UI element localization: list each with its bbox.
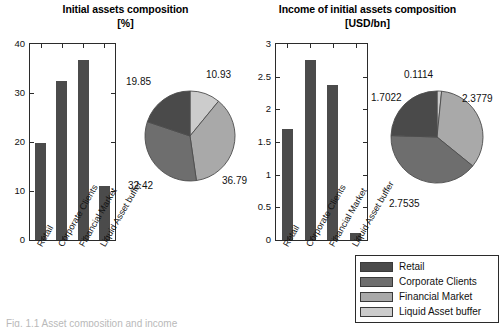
y-tick-mark xyxy=(276,207,280,208)
pie-value-label: 32.42 xyxy=(128,181,153,191)
y-tick-mark xyxy=(363,109,367,110)
x-tick-mark xyxy=(356,44,357,48)
y-tick-label: 40 xyxy=(0,39,25,49)
x-tick-mark xyxy=(83,44,84,48)
y-tick-mark xyxy=(363,175,367,176)
legend-label: Liquid Asset buffer xyxy=(399,307,481,317)
y-tick-label: 0 xyxy=(243,235,271,245)
y-tick-mark xyxy=(30,93,34,94)
y-tick-label: 20 xyxy=(0,137,25,147)
y-tick-mark xyxy=(363,77,367,78)
legend-item: Financial Market xyxy=(360,289,494,304)
bar xyxy=(56,81,67,240)
y-tick-label: 0 xyxy=(0,235,25,245)
x-tick-mark xyxy=(333,44,334,48)
y-tick-mark xyxy=(111,142,115,143)
pie-value-label: 10.93 xyxy=(206,70,231,80)
left-panel-title: Initial assets composition xyxy=(0,3,251,16)
pie-value-label: 1.7022 xyxy=(371,93,402,103)
legend-label: Financial Market xyxy=(399,292,472,302)
initial-assets-pie xyxy=(144,90,236,182)
pie-value-label: 2.3779 xyxy=(462,94,493,104)
y-tick-label: 2.5 xyxy=(243,72,271,82)
y-tick-mark xyxy=(276,109,280,110)
figure-caption: Fig. 1.1 Asset composition and income xyxy=(6,318,306,327)
legend-label: Retail xyxy=(399,262,425,272)
legend-item: Retail xyxy=(360,259,494,274)
legend-item: Corporate Clients xyxy=(360,274,494,289)
chart-legend: RetailCorporate ClientsFinancial MarketL… xyxy=(355,255,499,323)
right-panel-subtitle: [USD/bn] xyxy=(232,17,503,30)
legend-label: Corporate Clients xyxy=(399,277,477,287)
x-tick-mark xyxy=(310,44,311,48)
y-tick-mark xyxy=(276,142,280,143)
x-tick-mark xyxy=(104,44,105,48)
x-tick-mark xyxy=(287,44,288,48)
y-tick-label: 1 xyxy=(243,170,271,180)
y-tick-mark xyxy=(111,93,115,94)
legend-color-swatch xyxy=(360,277,393,287)
pie-svg xyxy=(390,90,484,184)
y-tick-mark xyxy=(276,77,280,78)
y-tick-label: 3 xyxy=(243,39,271,49)
pie-value-label: 0.1114 xyxy=(404,70,433,80)
x-tick-mark xyxy=(62,44,63,48)
legend-color-swatch xyxy=(360,262,393,272)
y-tick-label: 30 xyxy=(0,88,25,98)
pie-value-label: 19.85 xyxy=(126,77,151,87)
legend-item: Liquid Asset buffer xyxy=(360,304,494,319)
y-tick-label: 1.5 xyxy=(243,137,271,147)
x-tick-mark xyxy=(41,44,42,48)
right-panel-title: Income of initial assets composition xyxy=(232,3,503,16)
y-tick-label: 0.5 xyxy=(243,203,271,213)
y-tick-mark xyxy=(30,191,34,192)
pie-value-label: 2.7535 xyxy=(389,199,420,209)
y-tick-mark xyxy=(276,175,280,176)
y-tick-mark xyxy=(363,142,367,143)
pie-svg xyxy=(144,90,236,182)
left-panel-subtitle: [%] xyxy=(0,17,251,30)
bar xyxy=(305,60,316,240)
y-tick-mark xyxy=(363,207,367,208)
y-tick-mark xyxy=(30,142,34,143)
legend-color-swatch xyxy=(360,307,393,317)
y-tick-label: 10 xyxy=(0,186,25,196)
figure-canvas: Initial assets composition [%] 010203040… xyxy=(0,0,503,327)
income-assets-pie xyxy=(390,90,484,184)
legend-color-swatch xyxy=(360,292,393,302)
y-tick-label: 2 xyxy=(243,105,271,115)
